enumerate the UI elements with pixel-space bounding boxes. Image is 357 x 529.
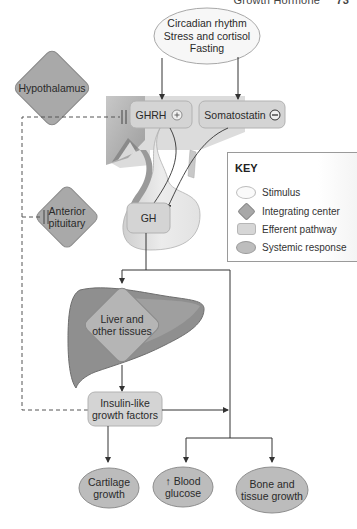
gh-label: GH [127, 210, 170, 226]
legend-title: KEY [235, 162, 258, 174]
legend-key: KEY Stimulus Integrating center Efferent… [227, 152, 357, 262]
somatostatin-label: Somatostatin [201, 107, 269, 123]
legend-item-stimulus: Stimulus [236, 184, 300, 200]
hypothalamus-label: Hypothalamus [10, 80, 94, 96]
stimulus-label: Circadian rhythm Stress and cortisol Fas… [154, 14, 260, 58]
blood-glucose-label: ↑ Blood glucose [153, 473, 213, 501]
stimulus-symbol-icon [236, 186, 256, 199]
integrating-center-symbol-icon [237, 202, 255, 220]
bone-tissue-growth-label: Bone and tissue growth [236, 476, 308, 504]
legend-item-efferent-pathway: Efferent pathway [236, 221, 337, 237]
systemic-response-symbol-icon [236, 241, 256, 254]
igf-label: Insulin-like growth factors [88, 395, 162, 423]
legend-item-integrating-center: Integrating center [236, 203, 340, 219]
legend-item-systemic-response: Systemic response [236, 239, 346, 255]
ghrh-label: GHRH [132, 107, 170, 123]
liver-label: Liver and other tissues [86, 311, 158, 339]
efferent-pathway-symbol-icon [237, 223, 256, 235]
anterior-pituitary-label: Anterior pituitary [40, 203, 94, 231]
cartilage-growth-label: Cartilage growth [79, 474, 139, 502]
